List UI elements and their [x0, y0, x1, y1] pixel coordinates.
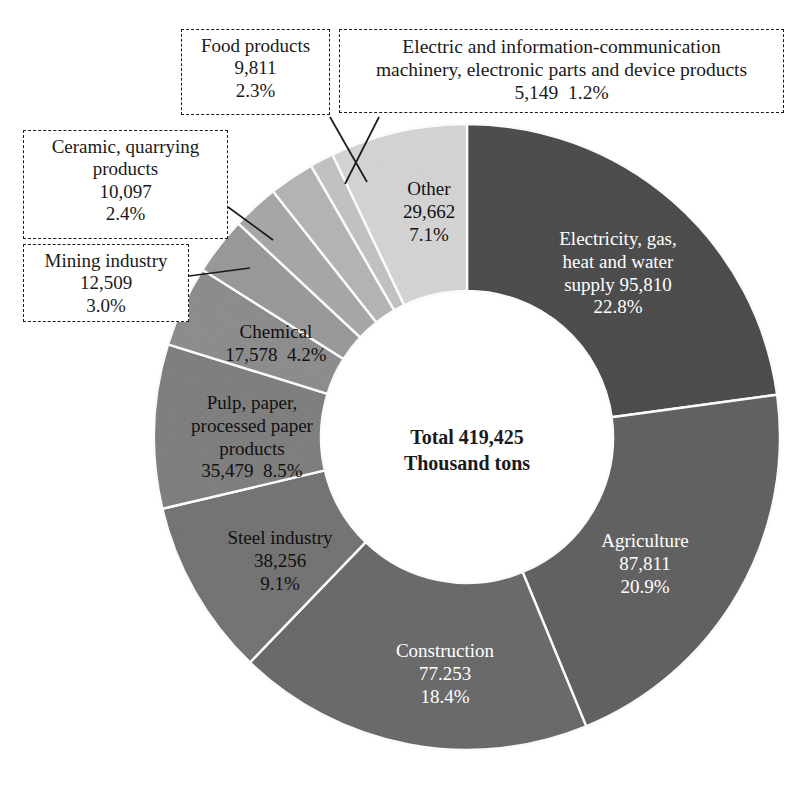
callout-food-percent: 2.3% [190, 80, 321, 102]
callout-electric-machinery-label-line2: machinery, electronic parts and device p… [348, 58, 775, 81]
callout-ceramic-quarrying: Ceramic, quarrying products 10,097 2.4% [23, 130, 228, 239]
callout-mining-value: 12,509 [32, 272, 180, 294]
slice-label-pulp-paper: Pulp, paper, processed paper products 35… [157, 392, 347, 483]
slice-label-electricity-percent: 22.8% [512, 296, 724, 319]
callout-ceramic-label-line1: Ceramic, quarrying [32, 136, 219, 158]
callout-mining-industry: Mining industry 12,509 3.0% [23, 244, 189, 322]
center-total-label: Total 419,425 Thousand tons [367, 424, 567, 476]
slice-label-agriculture-value: 87,811 [560, 553, 730, 576]
slice-label-construction-value: 77.253 [345, 663, 545, 686]
slice-label-electricity-name-line1: Electricity, gas, [512, 228, 724, 251]
callout-mining-percent: 3.0% [32, 295, 180, 317]
callout-ceramic-percent: 2.4% [32, 203, 219, 225]
callout-electric-machinery-label-line1: Electric and information-communication [348, 35, 775, 58]
slice-label-construction: Construction 77.253 18.4% [345, 640, 545, 708]
slice-label-electricity-name-line3: supply 95,810 [512, 274, 724, 297]
slice-label-pulp-percent: 8.5% [263, 460, 303, 481]
slice-label-agriculture: Agriculture 87,811 20.9% [560, 530, 730, 598]
slice-label-steel-name: Steel industry [185, 527, 375, 550]
callout-electric-machinery: Electric and information-communication m… [339, 29, 784, 113]
slice-label-construction-percent: 18.4% [345, 686, 545, 709]
callout-food-value: 9,811 [190, 57, 321, 79]
slice-label-electricity-name-line2: heat and water [512, 251, 724, 274]
slice-label-electricity: Electricity, gas, heat and water supply … [512, 228, 724, 319]
slice-label-other-value: 29,662 [379, 201, 479, 224]
slice-label-chemical: Chemical 17,578 4.2% [186, 321, 366, 367]
slice-label-agriculture-percent: 20.9% [560, 576, 730, 599]
center-total-line2: Thousand tons [367, 450, 567, 476]
donut-chart: Food products 9,811 2.3% Electric and in… [0, 0, 802, 786]
slice-label-pulp-value: 35,479 [201, 460, 253, 481]
callout-electric-machinery-value: 5,149 [514, 82, 558, 103]
slice-label-pulp-name-line1: Pulp, paper, [157, 392, 347, 415]
slice-label-steel-industry: Steel industry 38,256 9.1% [185, 527, 375, 595]
callout-ceramic-value: 10,097 [32, 181, 219, 203]
callout-mining-label: Mining industry [32, 250, 180, 272]
callout-ceramic-label-line2: products [32, 158, 219, 180]
slice-label-chemical-name: Chemical [186, 321, 366, 344]
callout-food-products: Food products 9,811 2.3% [181, 29, 330, 115]
callout-food-label: Food products [190, 35, 321, 57]
center-total-line1: Total 419,425 [367, 424, 567, 450]
slice-label-pulp-name-line2: processed paper [157, 415, 347, 438]
slice-label-pulp-name-line3: products [157, 438, 347, 461]
slice-label-other-percent: 7.1% [379, 224, 479, 247]
slice-label-construction-name: Construction [345, 640, 545, 663]
slice-label-steel-value: 38,256 [185, 550, 375, 573]
slice-label-chemical-value: 17,578 [225, 344, 277, 365]
slice-label-other-name: Other [379, 178, 479, 201]
slice-label-chemical-percent: 4.2% [287, 344, 327, 365]
slice-label-steel-percent: 9.1% [185, 573, 375, 596]
callout-electric-machinery-percent: 1.2% [568, 82, 609, 103]
slice-label-other: Other 29,662 7.1% [379, 178, 479, 246]
slice-label-agriculture-name: Agriculture [560, 530, 730, 553]
